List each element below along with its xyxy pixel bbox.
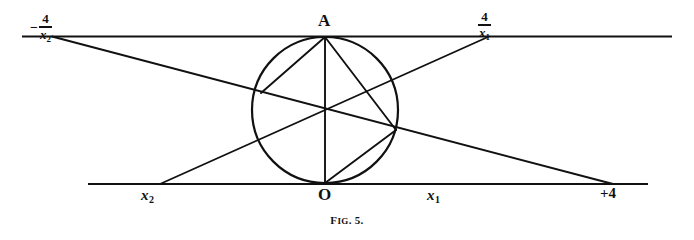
fraction-stack: 4x1: [478, 10, 491, 42]
geometry-diagram: [0, 0, 694, 240]
denominator-subscript: 2: [46, 34, 51, 44]
chord-o-to-right-intersection: [325, 130, 396, 183]
minus-sign: −: [30, 21, 38, 35]
label-x2: x2: [141, 188, 154, 205]
fraction-numerator: 4: [478, 10, 491, 24]
fraction-numerator: 4: [39, 12, 52, 26]
label-point-o: O: [318, 186, 331, 203]
label-x1: x1: [427, 188, 440, 205]
label-four-over-x1: 4x1: [478, 10, 491, 42]
denominator-subscript: 1: [486, 32, 491, 42]
fraction-denominator: x1: [478, 26, 491, 42]
x1-subscript: 1: [435, 194, 440, 205]
fraction-stack: 4x2: [39, 12, 52, 44]
secant-topleft-to-bottomright: [52, 37, 613, 185]
x2-variable: x: [141, 187, 149, 203]
x2-subscript: 2: [149, 194, 154, 205]
label-negative-four-over-x2: −4x2: [30, 12, 52, 44]
caption-smallcaps: IG: [337, 216, 348, 226]
label-plus-four: +4: [600, 186, 616, 201]
fraction-denominator: x2: [39, 28, 52, 44]
caption-suffix: . 5.: [349, 214, 364, 226]
label-point-a: A: [318, 12, 330, 29]
figure-5-container: −4x2 4x1 A O x2 x1 +4 FIG. 5.: [0, 0, 694, 240]
figure-caption: FIG. 5.: [0, 214, 694, 226]
x1-variable: x: [427, 187, 435, 203]
